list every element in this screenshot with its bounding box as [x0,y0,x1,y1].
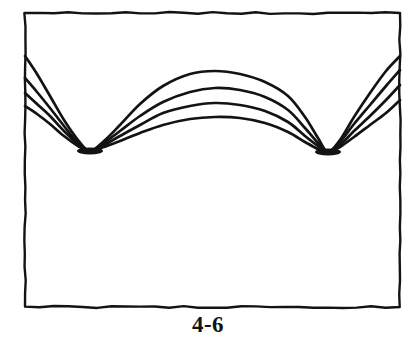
figure-border-box [24,12,400,308]
node-blob-1 [77,148,103,155]
figure-page: 4-6 [0,0,416,341]
wave-curves-group [25,56,400,155]
figure-caption: 4-6 [0,312,416,338]
node-blob-2 [315,149,341,156]
figure-canvas [0,0,416,341]
figure-frame [24,12,400,308]
